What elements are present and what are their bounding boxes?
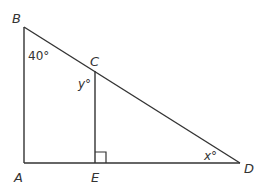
triangle-diagram: B C A E D 40° y° x° bbox=[0, 0, 265, 187]
point-label-a: A bbox=[13, 170, 23, 185]
angle-label-b: 40° bbox=[28, 49, 49, 63]
point-label-d: D bbox=[244, 161, 254, 176]
segment-bd bbox=[24, 27, 240, 163]
point-label-e: E bbox=[91, 170, 100, 185]
point-label-b: B bbox=[12, 11, 21, 26]
angle-label-d: x° bbox=[203, 149, 217, 163]
point-label-c: C bbox=[90, 54, 100, 69]
angle-label-c: y° bbox=[77, 77, 91, 91]
right-angle-marker bbox=[95, 152, 106, 163]
